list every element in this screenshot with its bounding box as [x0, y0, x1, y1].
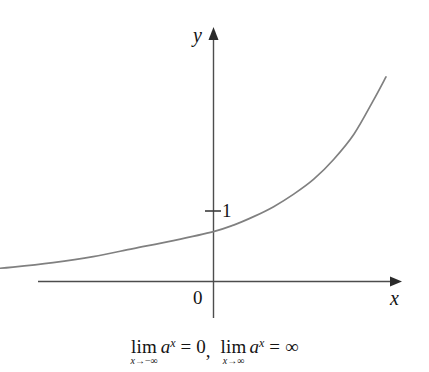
- limit-value-1: 0: [196, 336, 206, 358]
- y-intercept-tick-label: 1: [222, 201, 232, 220]
- y-axis-label: y: [193, 25, 202, 45]
- limit-equals-2: =: [269, 336, 280, 358]
- limit-subscript-1: x→−∞: [130, 356, 157, 367]
- limit-operator-text-2: lim: [221, 337, 247, 357]
- limit-operator-text-1: lim: [131, 337, 157, 357]
- limit-subscript-2: x→∞: [223, 356, 245, 367]
- figure-caption: lim x→−∞ ax = 0 , lim x→∞ ax = ∞: [0, 330, 429, 372]
- exponential-curve: [0, 77, 386, 278]
- limit-expression-positive-infinity: lim x→∞ ax = ∞: [221, 336, 299, 366]
- limit-subscript-target-2: ∞: [237, 355, 244, 366]
- limit-expression-negative-infinity: lim x→−∞ ax = 0: [130, 336, 205, 366]
- caption-separator: ,: [206, 340, 211, 362]
- x-axis-arrowhead: [390, 277, 402, 287]
- limit-operator-1: lim x→−∞: [130, 337, 157, 366]
- plot-svg: [0, 0, 429, 330]
- limit-value-2: ∞: [285, 336, 299, 358]
- limit-subscript-arrow-1: →: [135, 355, 145, 366]
- limit-subscript-target-1: −∞: [145, 355, 158, 366]
- y-axis-arrowhead: [209, 27, 219, 40]
- limit-base-2: a: [249, 336, 259, 358]
- exponential-limits-figure: y x 0 1 lim x→−∞ ax = 0 , lim x→∞ ax = ∞: [0, 0, 429, 372]
- limit-equals-1: =: [181, 336, 192, 358]
- limit-base-1: a: [161, 336, 171, 358]
- origin-tick-label: 0: [193, 288, 203, 307]
- plot-area: y x 0 1: [0, 0, 429, 330]
- x-axis-label: x: [390, 288, 399, 308]
- limit-subscript-arrow-2: →: [227, 355, 237, 366]
- limit-operator-2: lim x→∞: [221, 337, 247, 366]
